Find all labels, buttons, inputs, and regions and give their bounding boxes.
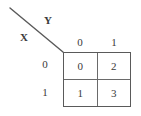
diagram-canvas: Y X 0 1 0 1 0 2 1 3 xyxy=(0,0,141,116)
column-header-0: 0 xyxy=(63,36,97,49)
cell-1-1: 3 xyxy=(97,80,130,107)
cell-1-0: 1 xyxy=(64,80,97,107)
column-variable-label: Y xyxy=(42,15,54,26)
row-variable-label: X xyxy=(18,32,30,43)
table-row: 1 3 xyxy=(64,80,130,107)
matrix-table: 0 2 1 3 xyxy=(63,52,131,107)
column-header-1: 1 xyxy=(97,36,131,49)
row-header-0: 0 xyxy=(33,58,57,71)
table-row: 0 2 xyxy=(64,53,130,80)
cell-0-1: 2 xyxy=(97,53,130,80)
row-header-1: 1 xyxy=(33,86,57,99)
cell-0-0: 0 xyxy=(64,53,97,80)
